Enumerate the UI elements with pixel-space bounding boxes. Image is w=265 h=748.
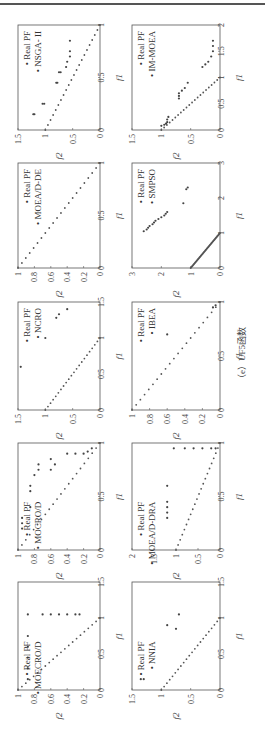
- figure-caption: （e）UF5函数: [236, 327, 247, 383]
- real-pf-point: [177, 669, 179, 671]
- y-tick-label: 0.8: [30, 272, 39, 282]
- algorithm-point: [160, 125, 162, 127]
- real-pf-point: [198, 327, 200, 329]
- algorithm-point: [56, 82, 58, 84]
- real-pf-point: [169, 122, 171, 124]
- real-pf-point: [86, 49, 88, 51]
- real-pf-point: [21, 686, 23, 688]
- real-pf-point: [186, 658, 188, 660]
- x-tick-label: 1.5: [217, 46, 226, 56]
- algorithm-point: [146, 228, 148, 230]
- algorithm-point: [153, 221, 155, 223]
- real-pf-point: [29, 679, 31, 681]
- y-tick-label: 0.6: [47, 694, 56, 704]
- real-pf-point: [72, 197, 74, 199]
- y-axis-label: f2: [171, 572, 181, 580]
- real-pf-point: [25, 539, 27, 541]
- real-pf-point: [56, 217, 58, 219]
- real-pf-point: [205, 634, 207, 636]
- y-tick-label: 0: [216, 134, 225, 138]
- real-pf-point: [160, 373, 162, 375]
- y-tick-label: 0: [96, 694, 105, 698]
- y-axis-label: f2: [171, 290, 181, 298]
- x-tick-label: 1: [97, 441, 106, 445]
- real-pf-point: [208, 631, 210, 633]
- real-pf-point: [70, 375, 72, 377]
- real-pf-point: [183, 662, 185, 664]
- algorithm-point: [66, 308, 68, 310]
- real-pf-point: [166, 682, 168, 684]
- algorithm-point: [33, 474, 35, 476]
- real-pf-point: [63, 385, 65, 387]
- algorithm-point: [178, 97, 180, 99]
- algorithm-point: [166, 333, 168, 335]
- algorithm-point: [50, 469, 52, 471]
- real-pf-point: [99, 337, 101, 339]
- algorithm-point: [29, 490, 31, 492]
- real-pf-point: [57, 392, 59, 394]
- y-tick-label: 2: [128, 554, 137, 558]
- x-axis-label: f1: [114, 74, 124, 81]
- real-pf-point: [25, 257, 27, 259]
- subplot-im-moea: 00.511.5200.511.5f1f2• Real PF• IM-MOEA: [128, 23, 244, 160]
- real-pf-point: [191, 651, 193, 653]
- real-pf-point: [99, 162, 101, 164]
- legend-real-pf: • Real PF: [22, 502, 32, 536]
- real-pf-point: [190, 513, 192, 515]
- real-pf-point: [219, 301, 221, 303]
- real-pf-point: [21, 262, 23, 264]
- x-tick-label: 1: [217, 76, 226, 80]
- legend-real-pf: • Real PF: [22, 308, 32, 342]
- x-axis-label: f1: [234, 632, 244, 639]
- legend-algorithm: • MOEA/D-DE: [33, 169, 43, 225]
- real-pf-point: [96, 29, 98, 31]
- algorithm-point: [166, 118, 168, 120]
- algorithm-point: [149, 225, 151, 227]
- algorithm-point: [55, 317, 57, 319]
- real-pf-point: [44, 409, 46, 411]
- real-pf-point: [87, 627, 89, 629]
- legend-algorithm: • MOEA/D-DRA: [147, 501, 157, 564]
- real-pf-point: [219, 442, 221, 444]
- algorithm-point: [27, 613, 29, 615]
- algorithm-point: [201, 66, 203, 68]
- real-pf-point: [76, 192, 78, 194]
- real-pf-point: [208, 87, 210, 89]
- real-pf-point: [174, 117, 176, 119]
- algorithm-point: [74, 453, 76, 455]
- y-axis-label: f2: [54, 290, 64, 298]
- algorithm-point: [212, 40, 214, 42]
- algorithm-point: [166, 506, 168, 508]
- real-pf-point: [172, 675, 174, 677]
- real-pf-point: [169, 363, 171, 365]
- legend-real-pf: • Real PF: [136, 169, 146, 203]
- y-axis-label: f2: [54, 712, 64, 720]
- real-pf-point: [99, 24, 101, 26]
- real-pf-point: [215, 452, 217, 454]
- y-tick-label: 1: [187, 272, 196, 276]
- y-tick-label: 0.6: [47, 272, 56, 282]
- algorithm-point: [163, 214, 165, 216]
- algorithm-point: [54, 463, 56, 465]
- real-pf-point: [202, 322, 204, 324]
- algorithm-point: [50, 613, 52, 615]
- real-pf-point: [144, 394, 146, 396]
- y-tick-label: 0: [216, 414, 225, 418]
- legend-algorithm: • MOCRO/D: [33, 501, 43, 549]
- y-tick-label: 1: [157, 694, 166, 698]
- real-pf-point: [83, 462, 85, 464]
- real-pf-point: [194, 503, 196, 505]
- algorithm-point: [178, 95, 180, 97]
- x-tick-label: 0: [97, 548, 106, 552]
- real-pf-point: [173, 358, 175, 360]
- algorithm-point: [143, 230, 145, 232]
- real-pf-point: [94, 34, 96, 36]
- y-tick-label: 3: [128, 272, 137, 276]
- subplot-ncro: 00.511.500.511.5f1f2• Real PF• NCRO: [14, 297, 124, 440]
- real-pf-point: [83, 182, 85, 184]
- y-tick-label: 1: [41, 134, 50, 138]
- real-pf-point: [139, 399, 141, 401]
- y-tick-label: 1: [41, 414, 50, 418]
- real-pf-point: [202, 638, 204, 640]
- y-tick-label: 1.5: [14, 414, 23, 424]
